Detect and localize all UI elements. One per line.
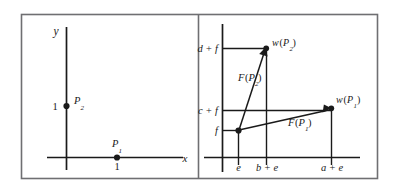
- vector-F-of-P1-paren-close: ): [308, 117, 312, 129]
- point-w-of-p1-marker: [328, 105, 334, 111]
- vector-F-of-P1-label-main: F: [287, 117, 295, 128]
- point-p2-marker: [63, 103, 69, 109]
- codomain-y-tick-label-c-plus-f: c + f: [198, 105, 220, 116]
- codomain-y-tick-label-d-plus-f: d + f: [197, 43, 220, 54]
- domain-x-tick-label-1: 1: [114, 161, 119, 172]
- point-p1-marker: [114, 154, 120, 160]
- codomain-origin-marker: [235, 127, 241, 133]
- vector-F-of-P2-paren-close: ): [258, 72, 262, 84]
- point-w-of-p2-label-main: w: [272, 37, 279, 48]
- domain-y-axis-label: y: [52, 25, 59, 38]
- point-w-of-p1-paren-close: ): [357, 94, 360, 106]
- codomain-x-tick-label-b-plus-e: b + e: [256, 162, 279, 173]
- domain-y-tick-label-1: 1: [52, 101, 57, 112]
- figure-svg: y x 1 P 2 P 1 1: [0, 0, 399, 193]
- codomain-x-tick-label-e: e: [236, 162, 241, 173]
- codomain-x-tick-label-a-plus-e: a + e: [321, 162, 344, 173]
- point-p1-label-sub: 1: [119, 147, 123, 155]
- point-w-of-p2-label-arg: P: [282, 37, 289, 48]
- point-w-of-p2-marker: [263, 45, 269, 51]
- point-w-of-p1-label-arg: P: [346, 94, 353, 105]
- point-w-of-p1-label-main: w: [336, 94, 343, 105]
- point-w-of-p2-paren-close: ): [293, 37, 296, 49]
- vector-F-of-P2-label-main: F: [237, 72, 245, 83]
- domain-x-axis-label: x: [182, 152, 188, 164]
- figure-container: y x 1 P 2 P 1 1: [0, 0, 399, 193]
- point-p2-label-sub: 2: [81, 104, 85, 112]
